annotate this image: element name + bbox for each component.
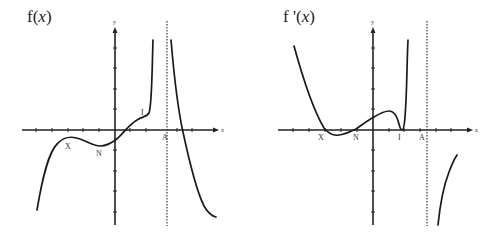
label-I: I <box>141 108 144 117</box>
label-A: A <box>419 133 425 142</box>
graph-f-prime-title: f '(x) <box>283 7 315 26</box>
y-axis-arrow-icon <box>113 27 118 33</box>
label-I: I <box>398 133 401 142</box>
f-curve-right-branch <box>171 40 216 217</box>
f-prime-curve-left-branch <box>294 40 408 135</box>
x-axis-label: x <box>475 127 478 133</box>
label-X: X <box>318 133 324 142</box>
graph-f: f(x) x y <box>22 7 224 226</box>
x-axis-label: x <box>221 127 224 133</box>
label-A: A <box>162 133 168 142</box>
y-axis-label: y <box>371 19 374 25</box>
y-axis-arrow-icon <box>371 27 376 33</box>
label-N: N <box>96 149 102 158</box>
label-X: X <box>65 142 71 151</box>
graph-f-prime: f '(x) x y <box>278 7 478 226</box>
x-axis-arrow-icon <box>467 128 473 133</box>
f-prime-curve-right-branch <box>438 155 457 225</box>
y-axis-label: y <box>113 19 116 25</box>
graph-f-title: f(x) <box>27 7 52 26</box>
x-axis-arrow-icon <box>213 128 219 133</box>
label-N: N <box>353 133 359 142</box>
graphs-canvas: f(x) x y <box>0 0 495 239</box>
f-curve-left-branch <box>37 40 153 210</box>
